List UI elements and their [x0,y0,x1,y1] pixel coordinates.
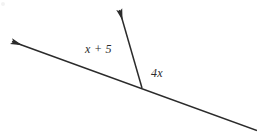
ray [120,10,143,88]
angle-label-x-plus-5: x + 5 [85,42,112,57]
angle-diagram-canvas [0,0,257,136]
straight-line [12,42,257,131]
geometry-figure: x + 5 4x [0,0,257,136]
angle-label-4x: 4x [151,66,163,81]
